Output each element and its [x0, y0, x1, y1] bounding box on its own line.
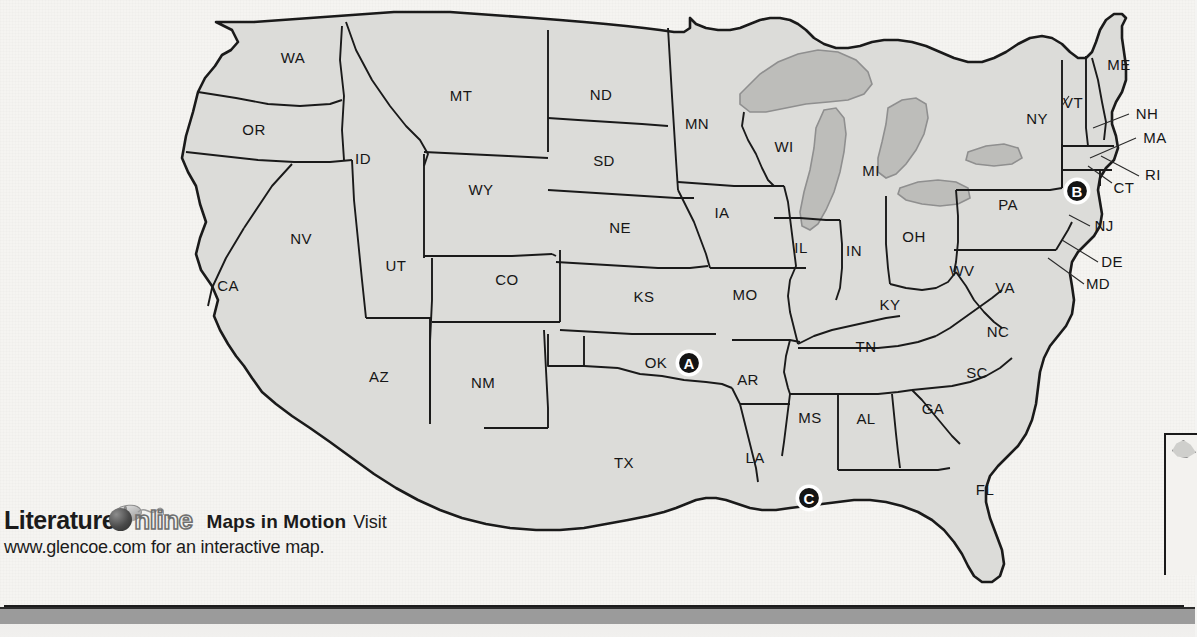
state-label-tn: TN — [856, 338, 877, 355]
map-marker-b[interactable]: B — [1064, 178, 1091, 205]
state-label-id: ID — [355, 150, 371, 167]
brand-literature-text: Literature — [4, 508, 115, 533]
state-label-me: ME — [1107, 56, 1130, 73]
state-label-wi: WI — [774, 138, 793, 155]
state-label-nc: NC — [987, 323, 1009, 340]
state-label-il: IL — [794, 239, 807, 256]
state-label-ca: CA — [217, 277, 239, 294]
state-label-ky: KY — [880, 296, 901, 313]
state-label-sd: SD — [593, 152, 615, 169]
state-label-al: AL — [856, 410, 875, 427]
promo-instruction-line: www.glencoe.com for an interactive map. — [4, 537, 644, 558]
state-label-nh: NH — [1136, 105, 1158, 122]
state-label-nv: NV — [290, 230, 312, 247]
map-marker-c[interactable]: C — [796, 485, 823, 512]
state-label-ga: GA — [922, 400, 944, 417]
state-label-nj: NJ — [1094, 217, 1113, 234]
state-label-wv: WV — [950, 262, 975, 279]
state-label-ut: UT — [386, 257, 407, 274]
state-label-ma: MA — [1143, 129, 1166, 146]
state-label-ne: NE — [609, 219, 631, 236]
state-label-ct: CT — [1114, 179, 1135, 196]
state-label-oh: OH — [902, 228, 925, 245]
map-marker-a[interactable]: A — [676, 350, 703, 377]
literature-online-promo: Literature nline Maps in Motion Visit ww… — [4, 503, 644, 558]
state-label-vt: VT — [1063, 94, 1083, 111]
state-label-ri: RI — [1145, 166, 1161, 183]
state-label-ks: KS — [634, 288, 655, 305]
state-label-fl: FL — [976, 481, 994, 498]
state-label-de: DE — [1101, 253, 1123, 270]
state-label-ok: OK — [645, 354, 667, 371]
adjacent-page-frame — [1164, 433, 1197, 575]
state-label-wy: WY — [469, 181, 494, 198]
marker-letter: B — [1072, 183, 1083, 200]
brand-online-text: nline — [134, 507, 192, 533]
state-label-ia: IA — [715, 204, 730, 221]
map-fragment-shape — [1172, 440, 1196, 458]
marker-letter: A — [684, 355, 695, 372]
state-label-mo: MO — [733, 286, 758, 303]
state-label-la: LA — [745, 449, 764, 466]
state-label-nd: ND — [590, 86, 612, 103]
state-label-ms: MS — [798, 409, 821, 426]
marker-letter: C — [804, 490, 815, 507]
state-label-mn: MN — [685, 115, 709, 132]
promo-instruction-text: for an interactive map. — [151, 537, 324, 557]
promo-brand-line: Literature nline Maps in Motion Visit — [4, 503, 644, 533]
state-label-mi: MI — [862, 162, 879, 179]
maps-in-motion-label: Maps in Motion — [206, 511, 346, 533]
state-label-wa: WA — [281, 49, 305, 66]
page-bottom-bar — [0, 609, 1195, 637]
state-label-ar: AR — [737, 371, 759, 388]
visit-label: Visit — [353, 512, 387, 533]
state-label-mt: MT — [450, 87, 472, 104]
state-label-va: VA — [995, 279, 1015, 296]
state-label-nm: NM — [471, 374, 495, 391]
state-label-pa: PA — [998, 196, 1018, 213]
state-label-md: MD — [1086, 275, 1110, 292]
state-label-sc: SC — [966, 364, 988, 381]
state-label-co: CO — [495, 271, 518, 288]
state-label-az: AZ — [369, 368, 389, 385]
state-label-ny: NY — [1026, 110, 1048, 127]
state-label-in: IN — [846, 242, 862, 259]
glencoe-url-link[interactable]: www.glencoe.com — [4, 537, 146, 557]
state-label-tx: TX — [614, 454, 634, 471]
state-label-or: OR — [242, 121, 265, 138]
